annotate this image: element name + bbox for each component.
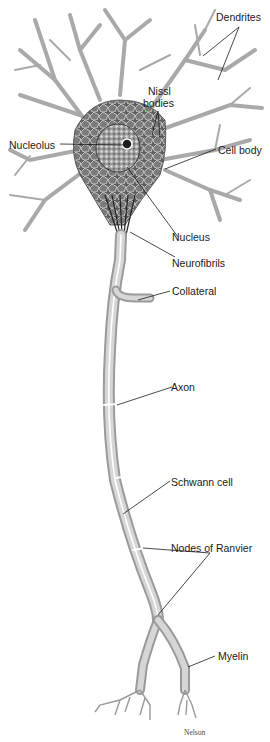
label-nucleolus: Nucleolus	[9, 139, 55, 151]
artist-credit: Nelson	[184, 728, 205, 737]
label-collateral: Collateral	[172, 285, 216, 297]
label-cell-body: Cell body	[218, 144, 262, 156]
label-dendrites: Dendrites	[216, 11, 261, 23]
label-neurofibrils: Neurofibrils	[172, 257, 225, 269]
label-nodes-of-ranvier: Nodes of Ranvier	[171, 542, 252, 554]
axon-shape	[104, 235, 185, 690]
label-nissl-line1: Nissl	[148, 85, 171, 97]
nucleolus-shape	[122, 139, 132, 149]
label-nissl-line2: bodies	[143, 97, 174, 109]
label-myelin: Myelin	[218, 650, 248, 662]
label-schwann-cell: Schwann cell	[171, 476, 233, 488]
nucleus-shape	[96, 124, 140, 172]
label-axon: Axon	[171, 381, 195, 393]
label-nucleus: Nucleus	[172, 231, 210, 243]
neuron-illustration	[0, 0, 270, 742]
